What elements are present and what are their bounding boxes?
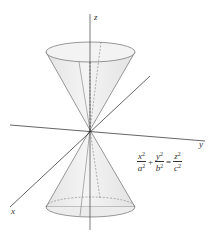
fraction-x: x2 a2 bbox=[137, 150, 146, 173]
cone-diagram: z y x bbox=[0, 0, 211, 235]
y-axis bbox=[10, 125, 205, 141]
y-axis-label: y bbox=[198, 139, 203, 149]
equals-sign: = bbox=[166, 157, 171, 167]
x-axis-label: x bbox=[10, 206, 15, 216]
plus-sign: + bbox=[148, 157, 153, 167]
fraction-y: y2 b2 bbox=[155, 150, 164, 173]
fraction-z: z2 c2 bbox=[173, 150, 182, 173]
upper-cone bbox=[46, 42, 135, 130]
cone-equation: x2 a2 + y2 b2 = z2 c2 bbox=[137, 150, 182, 173]
lower-cone bbox=[46, 130, 135, 217]
z-axis-label: z bbox=[93, 12, 98, 22]
